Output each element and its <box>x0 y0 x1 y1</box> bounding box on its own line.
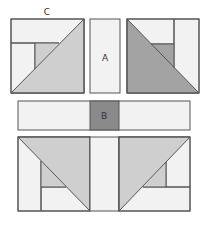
quilt-diagram: C A B <box>0 0 207 226</box>
label-c: C <box>44 7 50 17</box>
label-b: B <box>101 111 107 121</box>
block-bottom-right <box>119 137 190 211</box>
label-a: A <box>102 53 109 63</box>
block-top-left <box>11 19 84 93</box>
block-bottom-left <box>18 137 90 211</box>
strip-bottom-center <box>90 137 119 211</box>
block-top-right <box>127 19 199 93</box>
